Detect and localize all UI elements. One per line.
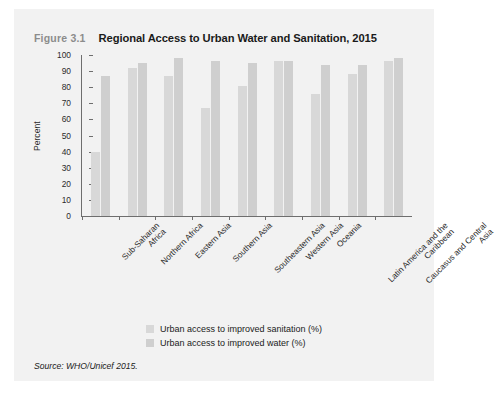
figure-card: Figure 3.1Regional Access to Urban Water… <box>14 9 434 381</box>
bar-water <box>321 65 330 216</box>
bar-sanitation <box>164 76 173 216</box>
y-tick-label: 10 <box>62 195 71 205</box>
bar-sanitation <box>91 152 100 216</box>
bar-group <box>302 55 339 216</box>
y-tick-label: 70 <box>62 98 71 108</box>
chart-plot-area: Percent 0102030405060708090100 Sub-Sahar… <box>34 55 416 315</box>
legend-swatch-sanitation <box>146 325 154 333</box>
bar-water <box>248 63 257 216</box>
bar-water <box>394 58 403 216</box>
y-tick-label: 40 <box>62 147 71 157</box>
figure-header: Figure 3.1Regional Access to Urban Water… <box>34 28 377 46</box>
bar-sanitation <box>238 86 247 216</box>
x-tick-mark <box>155 216 156 220</box>
bar-sanitation <box>128 68 137 216</box>
bar-water <box>211 61 220 216</box>
x-tick-mark <box>192 216 193 220</box>
legend-item-sanitation: Urban access to improved sanitation (%) <box>146 322 322 335</box>
bar-group <box>119 55 156 216</box>
bar-water <box>358 65 367 216</box>
y-tick-label: 30 <box>62 163 71 173</box>
bar-sanitation <box>311 94 320 216</box>
x-axis-category-label: Northern Africa <box>159 221 205 267</box>
bar-sanitation <box>274 61 283 216</box>
y-tick-label: 80 <box>62 82 71 92</box>
bar-water <box>138 63 147 216</box>
bar-sanitation <box>348 74 357 216</box>
y-tick-label: 90 <box>62 66 71 76</box>
x-tick-mark <box>119 216 120 220</box>
x-axis-category-label: Southern Asia <box>231 221 274 264</box>
bar-water <box>174 58 183 216</box>
bar-group <box>192 55 229 216</box>
bar-group <box>339 55 376 216</box>
x-axis-labels: Sub-SaharanAfricaNorthern AfricaEastern … <box>82 221 412 313</box>
chart-legend: Urban access to improved sanitation (%) … <box>146 322 322 350</box>
source-text: WHO/Unicef 2015. <box>64 361 138 371</box>
y-tick-label: 60 <box>62 114 71 124</box>
figure-number: Figure 3.1 <box>34 32 86 44</box>
y-axis-label: Percent <box>32 121 42 151</box>
y-tick-label: 50 <box>62 131 71 141</box>
legend-label-water: Urban access to improved water (%) <box>160 338 306 348</box>
bar-group <box>375 55 412 216</box>
y-axis-ticks: 0102030405060708090100 <box>46 55 76 217</box>
x-axis-line <box>81 216 412 217</box>
bar-water <box>101 76 110 216</box>
x-tick-mark <box>229 216 230 220</box>
source-label: Source: <box>34 361 64 371</box>
x-tick-mark <box>302 216 303 220</box>
bar-group <box>229 55 266 216</box>
x-tick-mark <box>82 216 83 220</box>
legend-swatch-water <box>146 339 154 347</box>
bar-sanitation <box>201 108 210 216</box>
bar-group <box>82 55 119 216</box>
x-tick-mark <box>375 216 376 220</box>
bar-sanitation <box>384 61 393 216</box>
figure-title: Regional Access to Urban Water and Sanit… <box>99 32 377 44</box>
source-note: Source: WHO/Unicef 2015. <box>34 361 138 371</box>
legend-label-sanitation: Urban access to improved sanitation (%) <box>160 324 322 334</box>
y-tick-label: 20 <box>62 179 71 189</box>
bar-water <box>284 61 293 216</box>
bar-group <box>155 55 192 216</box>
bar-groups <box>82 55 412 216</box>
bar-group <box>265 55 302 216</box>
y-tick-label: 100 <box>57 50 71 60</box>
x-tick-mark <box>339 216 340 220</box>
legend-item-water: Urban access to improved water (%) <box>146 336 322 349</box>
y-tick-label: 0 <box>66 211 71 221</box>
